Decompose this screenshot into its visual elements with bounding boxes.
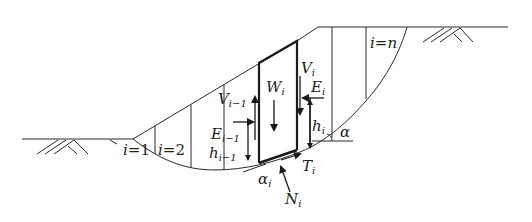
slice-i-outline — [259, 41, 297, 163]
slice-method-diagram: i=1 i=2 i=n Wi Vi−1 Ei−1 hi−1 Vi — [0, 0, 532, 222]
ground-hatch-right-icon — [423, 28, 473, 42]
ground-hatch-left-icon — [37, 140, 88, 154]
base-normal-label: Ni — [284, 190, 301, 209]
slice-label-last: i=n — [370, 34, 397, 52]
height-left-label: hi−1 — [209, 144, 237, 163]
base-normal-arrow — [281, 167, 290, 192]
slice-label-first: i=1 — [123, 141, 150, 159]
normal-left-label: Ei−1 — [210, 125, 240, 144]
normal-right-label: Ei — [310, 78, 325, 97]
shear-left-label: Vi−1 — [218, 90, 247, 109]
angle-arc — [327, 134, 332, 141]
slice-label-second: i=2 — [158, 141, 185, 159]
weight-label: Wi — [266, 78, 285, 97]
toe-tick — [110, 140, 117, 144]
height-right-label: hi — [312, 117, 325, 136]
base-shear-label: Ti — [302, 157, 315, 176]
slope-angle-label: α — [340, 123, 350, 141]
base-angle-label: αi — [258, 170, 271, 189]
shear-right-label: Vi — [301, 59, 315, 78]
